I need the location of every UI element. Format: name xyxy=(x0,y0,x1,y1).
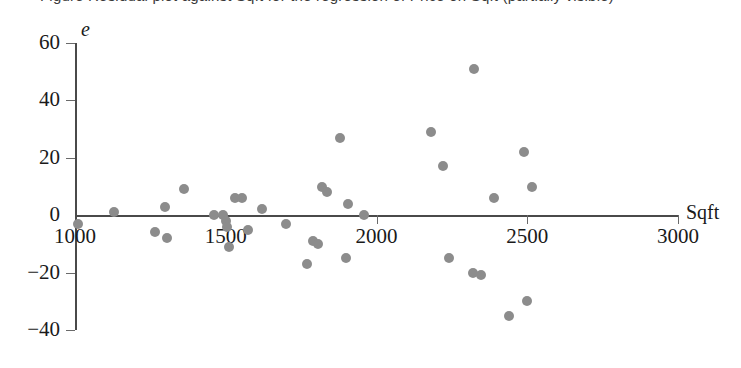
figure-container: Figure Residual plot against Sqft for th… xyxy=(0,0,741,368)
data-point xyxy=(313,239,323,249)
data-point xyxy=(469,64,479,74)
x-tick-label-1000: 1000 xyxy=(35,226,115,247)
y-tick-60 xyxy=(66,43,75,44)
y-tick-40 xyxy=(66,100,75,101)
x-tick-label-3000: 3000 xyxy=(638,226,718,247)
x-tick-label-2500: 2500 xyxy=(487,226,567,247)
data-point xyxy=(237,193,247,203)
data-point xyxy=(257,204,267,214)
x-tick-2500 xyxy=(527,215,528,224)
y-tick--20 xyxy=(66,273,75,274)
data-point xyxy=(150,227,160,237)
y-axis-title: e xyxy=(81,19,90,39)
data-point xyxy=(519,147,529,157)
data-point xyxy=(343,199,353,209)
y-tick-label--40: −40 xyxy=(0,319,60,340)
data-point xyxy=(335,133,345,143)
data-point xyxy=(504,311,514,321)
y-tick-20 xyxy=(66,158,75,159)
data-point xyxy=(162,233,172,243)
data-point xyxy=(438,161,448,171)
x-tick-3000 xyxy=(678,215,679,224)
y-tick-label-60: 60 xyxy=(0,32,60,53)
data-point xyxy=(243,225,253,235)
data-point xyxy=(322,187,332,197)
y-tick-label-20: 20 xyxy=(0,147,60,168)
data-point xyxy=(341,253,351,263)
data-point xyxy=(444,253,454,263)
data-point xyxy=(179,184,189,194)
y-tick-label-0: 0 xyxy=(0,204,60,225)
data-point xyxy=(476,270,486,280)
data-point xyxy=(302,259,312,269)
data-point xyxy=(160,202,170,212)
x-axis-title: Sqft xyxy=(686,202,719,222)
data-point xyxy=(359,210,369,220)
x-tick-2000 xyxy=(377,215,378,224)
data-point xyxy=(73,219,83,229)
y-tick-label-40: 40 xyxy=(0,89,60,110)
data-point xyxy=(489,193,499,203)
y-axis-line xyxy=(75,43,77,330)
x-tick-label-2000: 2000 xyxy=(337,226,417,247)
data-point xyxy=(527,182,537,192)
data-point xyxy=(426,127,436,137)
data-point xyxy=(522,296,532,306)
y-tick--40 xyxy=(66,330,75,331)
scatter-plot: 10001500200025003000−40−200204060eSqft xyxy=(0,0,741,368)
data-point xyxy=(281,219,291,229)
data-point xyxy=(222,222,232,232)
data-point xyxy=(224,242,234,252)
y-tick-label--20: −20 xyxy=(0,262,60,283)
